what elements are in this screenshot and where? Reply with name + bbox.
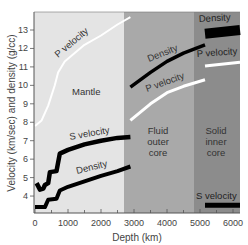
y-axis-ticks: 45678910111213 xyxy=(18,25,34,201)
y-tick-label: 4 xyxy=(23,191,28,201)
inner-core-label-line1: Solid xyxy=(205,125,226,136)
inner-core-label-line2: inner xyxy=(205,136,226,147)
outer-core-label-line3: core xyxy=(149,147,167,158)
inner-core-label-line3: core xyxy=(207,147,225,158)
mantle-region-label: Mantle xyxy=(72,86,101,97)
y-axis-title: Velocity (km/sec) and density (g/cc) xyxy=(6,34,17,191)
y-tick-label: 9 xyxy=(23,99,28,109)
y-tick-label: 5 xyxy=(23,173,28,183)
density-inner-core-curve xyxy=(205,30,240,34)
inner-core-s-velocity-label: S velocity xyxy=(196,190,237,201)
y-tick-label: 6 xyxy=(23,154,28,164)
inner-core-density-label: Density xyxy=(199,11,231,24)
velocity-density-chart: 45678910111213 0100020003000400050006000… xyxy=(0,0,248,245)
outer-core-label-line2: outer xyxy=(147,136,169,147)
y-tick-label: 8 xyxy=(23,117,28,127)
x-tick-label: 5000 xyxy=(190,218,210,228)
y-tick-label: 10 xyxy=(18,80,28,90)
x-tick-label: 3000 xyxy=(124,218,144,228)
y-tick-label: 7 xyxy=(23,136,28,146)
y-tick-label: 11 xyxy=(19,62,28,72)
x-tick-label: 0 xyxy=(32,218,37,228)
y-tick-label: 13 xyxy=(18,25,28,35)
x-tick-label: 4000 xyxy=(157,218,177,228)
x-axis-title: Depth (km) xyxy=(112,232,161,243)
x-tick-label: 2000 xyxy=(91,218,111,228)
outer-core-region xyxy=(124,12,194,213)
x-tick-label: 6000 xyxy=(223,218,243,228)
y-tick-label: 12 xyxy=(18,43,28,53)
x-tick-label: 1000 xyxy=(58,218,78,228)
outer-core-label-line1: Fluid xyxy=(148,125,169,136)
inner-core-region xyxy=(194,12,240,213)
